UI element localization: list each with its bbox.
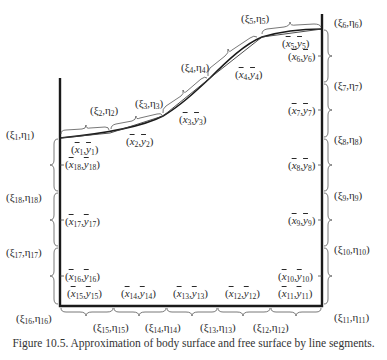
figure: (ξ1,η1) (ξ2,η2) (ξ3,η3) (ξ4,η4) (ξ5,η5) … bbox=[0, 0, 387, 360]
midpoint-label-2: (x2,y2) bbox=[126, 135, 153, 147]
node-label-4: (ξ4,η4) bbox=[181, 61, 209, 73]
midpoint-label-7: (x7,y7) bbox=[288, 104, 315, 116]
midpoint-label-16: (x16,y16) bbox=[65, 270, 100, 282]
node-label-9: (ξ9,η9) bbox=[334, 189, 362, 201]
node-label-11: (ξ11,η11) bbox=[334, 311, 369, 323]
midpoint-label-18: (x18,y18) bbox=[65, 158, 100, 170]
node-label-3: (ξ3,η3) bbox=[135, 97, 163, 109]
node-label-17: (ξ17,η17) bbox=[6, 246, 42, 258]
midpoint-label-5: (x5,y5) bbox=[282, 37, 309, 49]
bottom-braces bbox=[61, 308, 321, 316]
node-label-5: (ξ5,η5) bbox=[241, 12, 269, 24]
midpoint-label-12: (x12,y12) bbox=[225, 287, 260, 299]
midpoint-label-1: (x1,y1) bbox=[71, 143, 98, 155]
midpoint-label-3: (x3,y3) bbox=[179, 113, 206, 125]
midpoint-label-9: (x9,y9) bbox=[288, 214, 315, 226]
diagram-svg bbox=[0, 0, 387, 360]
node-label-15: (ξ15,η15) bbox=[93, 321, 129, 333]
node-label-14: (ξ14,η14) bbox=[145, 321, 181, 333]
midpoint-label-4: (x4,y4) bbox=[235, 68, 262, 80]
midpoint-label-15: (x15,y15) bbox=[67, 287, 102, 299]
node-label-7: (ξ7,η7) bbox=[334, 79, 362, 91]
midpoint-label-11: (x11,y11) bbox=[278, 287, 312, 299]
midpoint-label-14: (x14,y14) bbox=[121, 287, 156, 299]
node-label-18: (ξ18,η18) bbox=[6, 191, 42, 203]
midpoint-label-13: (x13,y13) bbox=[173, 287, 208, 299]
node-label-16: (ξ16,η16) bbox=[16, 312, 52, 324]
midpoint-label-17: (x17,y17) bbox=[65, 215, 100, 227]
midpoint-label-10: (x10,y10) bbox=[278, 270, 313, 282]
node-label-13: (ξ13,η13) bbox=[200, 321, 236, 333]
midpoint-label-8: (x8,y8) bbox=[288, 159, 315, 171]
right-wall-braces bbox=[324, 30, 332, 304]
node-label-2: (ξ2,η2) bbox=[90, 104, 118, 116]
left-wall-braces bbox=[50, 139, 58, 304]
node-label-12: (ξ12,η12) bbox=[253, 321, 289, 333]
figure-caption: Figure 10.5. Approximation of body surfa… bbox=[0, 337, 387, 349]
node-label-6: (ξ6,η6) bbox=[334, 16, 362, 28]
node-label-8: (ξ8,η8) bbox=[334, 133, 362, 145]
midpoint-label-6: (x6,y6) bbox=[288, 50, 315, 62]
node-label-1: (ξ1,η1) bbox=[6, 128, 34, 140]
node-label-10: (ξ10,η10) bbox=[334, 243, 370, 255]
